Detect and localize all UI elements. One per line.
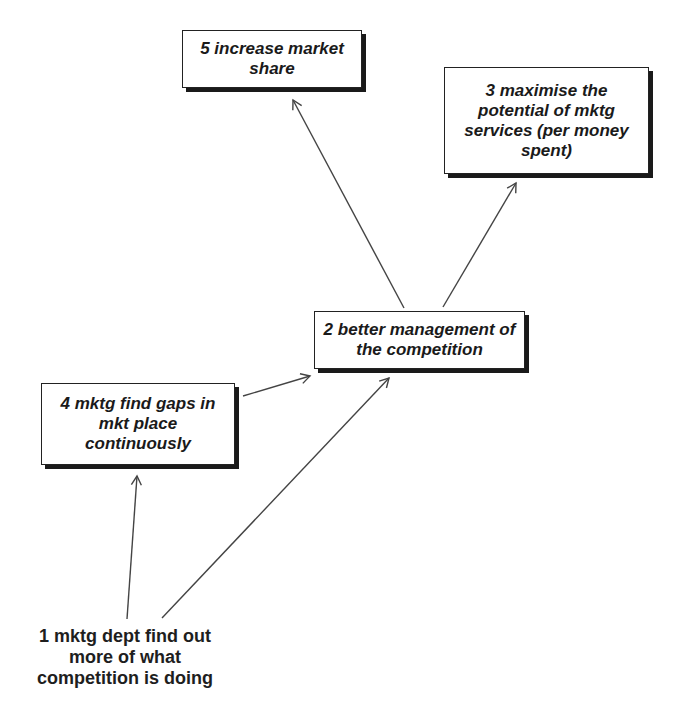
node-4-find-gaps[interactable]: 4 mktg find gaps in mkt place continuous… [41,383,235,465]
node-2-label: 2 better management of the competition [319,320,520,360]
node-3-maximise-potential[interactable]: 3 maximise the potential of mktg service… [444,67,649,174]
node-1-find-out-competition[interactable]: 1 mktg dept find out more of what compet… [22,622,228,692]
arrow-1-to-4 [127,476,137,619]
node-5-label: 5 increase market share [187,39,357,79]
node-5-increase-market-share[interactable]: 5 increase market share [182,30,362,88]
diagram-canvas: 5 increase market share 3 maximise the p… [0,0,683,718]
arrow-2-to-3 [443,183,516,307]
node-2-better-management[interactable]: 2 better management of the competition [314,311,525,369]
arrow-4-to-2 [243,376,310,396]
node-4-label: 4 mktg find gaps in mkt place continuous… [46,394,230,454]
arrow-2-to-5 [293,100,404,308]
node-3-label: 3 maximise the potential of mktg service… [449,81,644,161]
node-1-label: 1 mktg dept find out more of what compet… [26,626,224,689]
